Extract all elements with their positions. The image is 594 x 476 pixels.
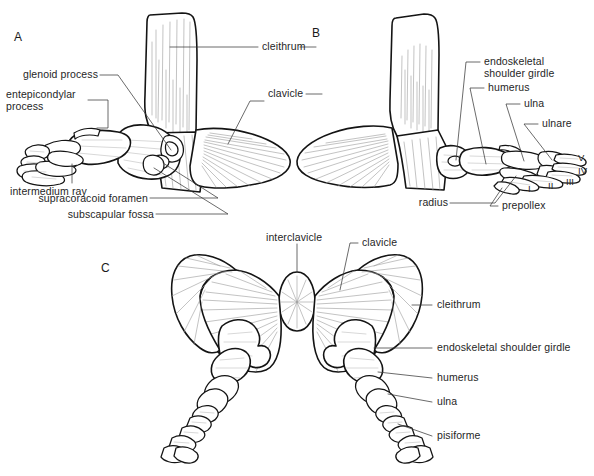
digit-label-ii: II (548, 180, 553, 191)
label-ulnare-b: ulnare (542, 118, 572, 130)
panel-letter-a: A (14, 30, 22, 44)
label-interclavicle-c: interclavicle (266, 232, 322, 244)
label-endoskeletal-shoulder-girdle-c: endoskeletal shoulder girdle (437, 342, 571, 354)
panel-letter-c: C (101, 261, 110, 275)
label-subscapular-fossa-a: subscapular fossa (22, 209, 154, 221)
label-pisiforme-c: pisiforme (437, 430, 481, 442)
digit-label-iii: III (566, 176, 574, 187)
label-supracoracoid-foramen-a: supracoracoid foramen (2, 193, 148, 205)
label-humerus-c: humerus (437, 372, 479, 384)
label-radius-b: radius (398, 197, 448, 209)
digit-label-iv: IV (578, 165, 587, 176)
label-ulna-b: ulna (524, 98, 544, 110)
label-endoskeletal-shoulder-girdle-b: endoskeletal shoulder girdle (484, 56, 554, 79)
figure-container: .ol{fill:#ffffff;stroke:#141414;stroke-w… (0, 0, 594, 476)
label-humerus-b: humerus (488, 82, 530, 94)
leader-entepicondylar-a (88, 100, 108, 128)
label-clavicle-a: clavicle (268, 88, 303, 100)
label-cleithrum-a: cleithrum (262, 41, 306, 53)
label-cleithrum-c: cleithrum (437, 299, 481, 311)
panel-c-artwork (161, 255, 433, 463)
digit-label-v: V (578, 152, 584, 163)
leader-humerus-c (378, 372, 432, 378)
label-glenoid-process-a: glenoid process (6, 69, 98, 81)
panel-letter-b: B (312, 26, 320, 40)
label-prepollex-b: prepollex (502, 200, 546, 212)
leader-endoskeletal-b (456, 62, 480, 160)
label-ulna-c: ulna (437, 396, 457, 408)
digit-label-i: I (528, 183, 531, 194)
clavicle-shape-b (297, 126, 398, 188)
leader-prepollex-b (490, 188, 502, 206)
label-clavicle-c: clavicle (362, 237, 397, 249)
label-entepicondylar-process-a: entepicondylar process (6, 89, 90, 112)
